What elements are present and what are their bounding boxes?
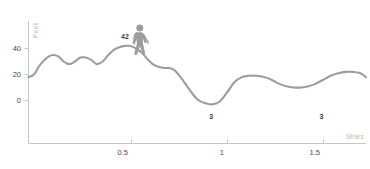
x-tick-label-1-5: 1.5 [310, 148, 320, 157]
y-tick-label-20: 20 [13, 70, 21, 79]
y-tick-label-0: 0 [17, 96, 21, 105]
valley-elevation-label-2: 3 [320, 113, 324, 120]
elevation-profile-chart: 40 20 0 Feet 0.5 1 1.5 Miles 42 3 3 [0, 0, 370, 169]
x-tick-label-1: 1 [220, 148, 224, 157]
x-axis-title: Miles [346, 133, 364, 140]
peak-elevation-label: 42 [121, 33, 129, 40]
elevation-line [29, 46, 367, 105]
valley-elevation-label-1: 3 [209, 113, 213, 120]
y-axis-title: Feet [32, 23, 39, 38]
chart-canvas: 40 20 0 Feet 0.5 1 1.5 Miles 42 3 3 [0, 0, 370, 169]
y-tick-label-40: 40 [13, 44, 21, 53]
x-tick-label-0-5: 0.5 [118, 148, 128, 157]
